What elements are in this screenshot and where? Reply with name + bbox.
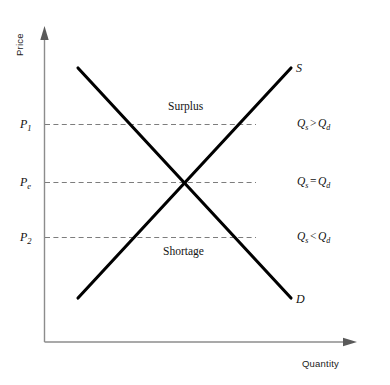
supply-demand-chart: Price Quantity P1 Pe P2 Surplus Shortage… — [0, 0, 390, 385]
x-axis-arrowhead — [343, 338, 357, 346]
condition-equilibrium-operator: = — [308, 175, 318, 187]
condition-shortage-operator: < — [308, 230, 318, 242]
condition-surplus-operator: > — [308, 117, 318, 129]
tick-label-p1: P1 — [20, 117, 32, 133]
condition-shortage: Qs<Qd — [297, 230, 330, 245]
tick-pe-sub: e — [27, 181, 31, 191]
region-label-surplus: Surplus — [168, 100, 203, 112]
tick-label-p2: P2 — [20, 230, 32, 246]
tick-p1-sub: 1 — [27, 123, 31, 133]
demand-curve-label: D — [296, 292, 305, 307]
condition-equilibrium-qd: Q — [318, 175, 326, 187]
tick-label-pe: Pe — [20, 175, 31, 191]
condition-surplus: Qs>Qd — [297, 117, 330, 132]
tick-p2-sub: 2 — [27, 236, 31, 246]
y-axis-arrowhead — [40, 26, 48, 40]
condition-equilibrium: Qs=Qd — [297, 175, 330, 190]
condition-surplus-qd: Q — [318, 117, 326, 129]
x-axis-label: Quantity — [302, 358, 339, 369]
region-label-shortage: Shortage — [163, 245, 204, 257]
chart-canvas — [0, 0, 390, 385]
supply-curve-label: S — [296, 61, 302, 76]
condition-equilibrium-qd-sub: d — [326, 181, 330, 190]
condition-surplus-qd-sub: d — [326, 123, 330, 132]
condition-shortage-qd: Q — [318, 230, 326, 242]
condition-shortage-qd-sub: d — [326, 236, 330, 245]
y-axis-label: Price — [14, 33, 25, 56]
